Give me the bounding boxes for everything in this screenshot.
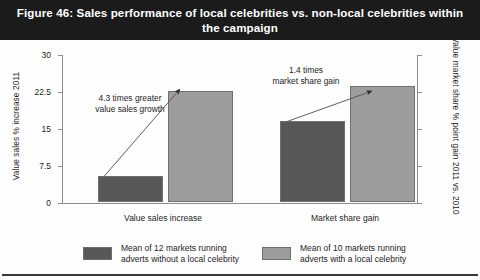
legend-swatch-icon xyxy=(262,247,291,260)
left-axis-line xyxy=(62,55,63,204)
left-axis-tick-label: 15 xyxy=(42,124,51,134)
category-label: Market share gain xyxy=(275,213,415,223)
left-axis-tick-label: 30 xyxy=(42,50,51,60)
legend-label-line: adverts without a local celebrity xyxy=(121,254,239,265)
right-axis-tick xyxy=(418,55,422,56)
left-axis-tick-label: 7.5 xyxy=(39,161,51,171)
category-label: Value sales increase xyxy=(93,213,233,223)
figure-container: Figure 46: Sales performance of local ce… xyxy=(0,0,480,280)
chart-legend: Mean of 12 markets runningadverts withou… xyxy=(0,243,480,271)
annotation-line: market share gain xyxy=(248,76,364,87)
left-axis-tick-label: 0 xyxy=(46,198,51,208)
annotation-line: value sales growth xyxy=(70,104,190,115)
bar-without-celebrity xyxy=(98,176,163,202)
legend-item-label: Mean of 12 markets runningadverts withou… xyxy=(121,243,239,264)
plot-area: Value sales % increase 2011 Value market… xyxy=(62,55,418,203)
bottom-divider xyxy=(2,274,478,276)
left-axis-tick xyxy=(58,92,62,93)
right-axis-tick xyxy=(418,92,422,93)
left-axis-title: Value sales % increase 2011 xyxy=(11,46,21,206)
legend-swatch-icon xyxy=(83,247,112,260)
annotation-line: 4.3 times greater xyxy=(70,93,190,104)
bar-with-celebrity xyxy=(350,86,415,202)
left-axis-tick xyxy=(58,55,62,56)
legend-label-line: Mean of 10 markets running xyxy=(300,243,406,254)
bottom-axis-line xyxy=(62,203,418,204)
annotation-line: 1.4 times xyxy=(248,65,364,76)
left-axis-tick xyxy=(58,166,62,167)
legend-item-label: Mean of 10 markets runningadverts with a… xyxy=(300,243,406,264)
left-axis-tick-label: 22.5 xyxy=(34,87,51,97)
left-axis-tick xyxy=(58,129,62,130)
legend-item-with-celebrity: Mean of 10 markets runningadverts with a… xyxy=(262,243,406,264)
annotation-value-sales-growth: 4.3 times greatervalue sales growth xyxy=(70,93,190,114)
bar-without-celebrity xyxy=(280,121,345,202)
page-title: Figure 46: Sales performance of local ce… xyxy=(14,5,466,35)
legend-item-without-celebrity: Mean of 12 markets runningadverts withou… xyxy=(83,243,239,264)
legend-label-line: Mean of 12 markets running xyxy=(121,243,239,254)
right-axis-tick xyxy=(418,166,422,167)
right-axis-tick xyxy=(418,129,422,130)
right-axis-tick xyxy=(418,203,422,204)
figure-title-band: Figure 46: Sales performance of local ce… xyxy=(0,0,480,40)
left-axis-tick xyxy=(58,203,62,204)
annotation-market-share-gain: 1.4 timesmarket share gain xyxy=(248,65,364,86)
legend-label-line: adverts with a local celebrity xyxy=(300,254,406,265)
right-axis-title: Value market share % point gain 2011 vs.… xyxy=(451,26,461,226)
